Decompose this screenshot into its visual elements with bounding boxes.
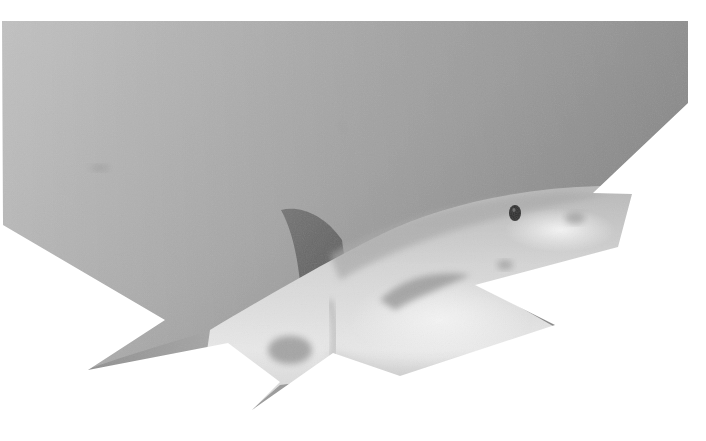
photo-stage: Grayscale underwater photo of a great wh…	[0, 0, 706, 441]
photo-clip-region	[0, 0, 706, 441]
particle	[90, 165, 110, 171]
fin-shadow	[268, 336, 312, 364]
belly-highlight	[350, 275, 530, 365]
shark-photo	[0, 0, 706, 441]
shark-eye	[509, 205, 521, 221]
